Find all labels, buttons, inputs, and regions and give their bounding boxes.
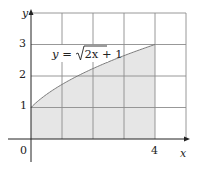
- x-axis-label: x: [180, 147, 187, 160]
- y-tick-3: 3: [19, 37, 26, 50]
- origin-label: 0: [20, 144, 27, 157]
- y-axis-arrow-icon: [29, 9, 34, 15]
- y-axis-label: y: [21, 7, 29, 20]
- svg-text:y =: y =: [51, 47, 72, 61]
- equation-prefix: y =: [51, 47, 72, 61]
- chart-svg: y = 2x + 1 y x 3 2 1 0 4: [0, 0, 198, 175]
- equation-radicand: 2x + 1: [85, 47, 123, 61]
- x-tick-4: 4: [151, 144, 158, 157]
- x-axis-arrow-icon: [184, 137, 190, 142]
- y-tick-1: 1: [20, 99, 27, 112]
- y-tick-2: 2: [19, 68, 26, 81]
- equation-label: y = 2x + 1: [51, 46, 123, 61]
